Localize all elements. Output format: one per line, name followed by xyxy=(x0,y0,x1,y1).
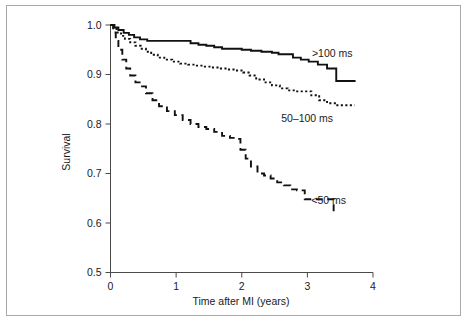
y-axis-ticks: 0.50.60.70.80.91.0 xyxy=(87,19,111,279)
x-tick-label: 4 xyxy=(370,280,376,292)
y-tick-label: 0.6 xyxy=(87,217,102,229)
y-tick-label: 0.8 xyxy=(87,118,102,130)
x-axis-ticks: 01234 xyxy=(108,273,377,292)
x-axis-title: Time after MI (years) xyxy=(192,295,289,307)
y-axis-title: Survival xyxy=(60,133,72,170)
y-tick-label: 0.7 xyxy=(87,167,102,179)
series-label-over-100ms: >100 ms xyxy=(312,47,353,59)
figure-root: 0.50.60.70.80.91.0 01234 >100 ms 50–100 … xyxy=(0,0,467,322)
y-tick-label: 1.0 xyxy=(87,19,102,31)
axes xyxy=(111,25,374,273)
x-tick-label: 3 xyxy=(304,280,310,292)
series-label-50-100ms: 50–100 ms xyxy=(281,112,333,124)
x-tick-label: 0 xyxy=(108,280,114,292)
survival-chart: 0.50.60.70.80.91.0 01234 >100 ms 50–100 … xyxy=(0,0,467,322)
x-tick-label: 2 xyxy=(239,280,245,292)
y-tick-label: 0.5 xyxy=(87,266,102,278)
series-label-under-50ms: <50 ms xyxy=(311,194,346,206)
x-tick-label: 1 xyxy=(173,280,179,292)
y-tick-label: 0.9 xyxy=(87,68,102,80)
